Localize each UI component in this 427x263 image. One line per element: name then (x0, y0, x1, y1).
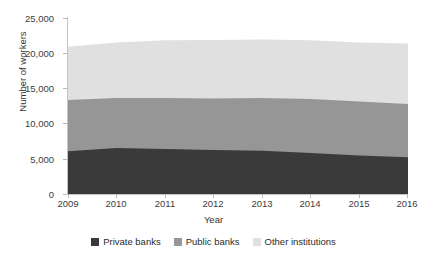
legend-label: Public banks (186, 236, 240, 247)
legend-swatch-other-institutions (253, 238, 261, 246)
x-tick-label: 2016 (382, 198, 427, 209)
y-tick-label: 5,000 (8, 154, 54, 165)
stacked-area-svg (68, 14, 408, 194)
y-tick-label: 10,000 (8, 118, 54, 129)
x-tick-label: 2010 (91, 198, 141, 209)
x-tick-label: 2012 (188, 198, 238, 209)
chart-legend: Private banks Public banks Other institu… (0, 236, 427, 247)
x-tick-label: 2013 (237, 198, 287, 209)
legend-item-private-banks[interactable]: Private banks (91, 236, 161, 247)
x-tick-label: 2011 (140, 198, 190, 209)
y-axis-tick-labels: 25,000 20,000 15,000 10,000 5,000 0 (8, 0, 54, 200)
chart-title-clipped (64, 0, 364, 3)
y-tick-label: 25,000 (8, 13, 54, 24)
x-tick-label: 2014 (285, 198, 335, 209)
y-tick-label: 20,000 (8, 48, 54, 59)
x-tick-label: 2009 (43, 198, 93, 209)
x-axis-line (67, 194, 408, 195)
legend-label: Private banks (103, 236, 161, 247)
plot-area (68, 14, 408, 194)
chart-figure: Number of workers 25,000 20,000 15,000 1… (0, 0, 427, 263)
legend-swatch-public-banks (174, 238, 182, 246)
y-tick-label: 15,000 (8, 83, 54, 94)
legend-item-public-banks[interactable]: Public banks (174, 236, 240, 247)
x-axis-title: Year (0, 214, 427, 225)
x-tick-label: 2015 (334, 198, 384, 209)
legend-item-other-institutions[interactable]: Other institutions (253, 236, 336, 247)
legend-label: Other institutions (265, 236, 336, 247)
legend-swatch-private-banks (91, 238, 99, 246)
